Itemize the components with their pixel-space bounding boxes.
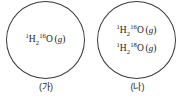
oxygen-symbol: O	[137, 43, 144, 53]
container-circle-a: 1H216O(g)	[6, 1, 85, 79]
oxygen-symbol: O	[137, 25, 144, 35]
hydrogen-subscript: 2	[127, 30, 130, 37]
state-paren-close: )	[153, 25, 156, 35]
hydrogen-symbol: H	[29, 34, 36, 44]
state-paren-close: )	[62, 34, 65, 44]
species-formula: 1H216O(g)	[116, 26, 156, 36]
hydrogen-symbol: H	[120, 43, 127, 53]
panel-b-caption: (나)	[92, 80, 183, 93]
container-circle-b: 1H216O(g) 1H218O(g)	[97, 1, 176, 79]
panel-b: 1H216O(g) 1H218O(g) (나)	[92, 0, 183, 99]
panel-a-caption: (가)	[0, 80, 92, 93]
species-formula: 1H218O(g)	[116, 44, 156, 54]
hydrogen-subscript: 2	[127, 48, 130, 55]
hydrogen-symbol: H	[120, 25, 127, 35]
oxygen-symbol: O	[46, 34, 53, 44]
oxygen-mass-number: 16	[39, 32, 46, 39]
hydrogen-subscript: 2	[36, 39, 39, 46]
state-paren-close: )	[153, 43, 156, 53]
isotope-container-diagram: 1H216O(g) (가) 1H216O(g) 1H218O(g) (나)	[0, 0, 183, 99]
oxygen-mass-number: 16	[130, 23, 137, 30]
oxygen-mass-number: 18	[130, 41, 137, 48]
panel-a: 1H216O(g) (가)	[0, 0, 92, 99]
species-formula: 1H216O(g)	[25, 35, 65, 45]
